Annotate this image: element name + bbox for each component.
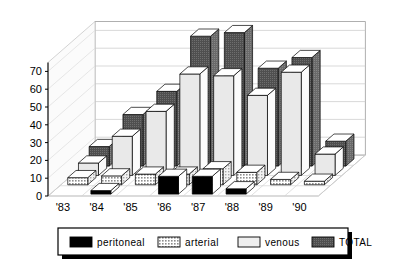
legend-label: peritoneal [97,237,145,248]
venous-swatch [238,237,260,247]
legend-item: peritoneal [70,237,145,248]
legend-item: arterial [158,237,219,248]
y-tick-label: 60 [30,83,42,95]
y-tick-label: 10 [30,172,42,184]
y-tick-label: 0 [36,190,42,202]
chart-3d-bar: 010203040506070 '83'84'85'86'87'88'89'90… [0,0,398,270]
bar [180,67,208,176]
x-tick-label: '86 [157,201,171,213]
bar [214,69,242,176]
bar [146,104,174,175]
x-tick-label: '83 [56,201,70,213]
total-swatch [312,237,334,247]
legend-label: venous [265,237,300,248]
chart-legend: peritonealarterialvenousTOTAL [58,228,372,259]
y-tick-label: 50 [30,101,42,113]
legend-item: venous [238,237,300,248]
x-tick-label: '84 [90,201,104,213]
bar [281,65,309,175]
y-tick-label: 30 [30,137,42,149]
arterial-swatch [158,237,180,247]
y-tick-label: 20 [30,154,42,166]
peritoneal-swatch [70,237,92,247]
x-tick-label: '87 [191,201,205,213]
chart-canvas: 010203040506070 '83'84'85'86'87'88'89'90… [0,0,398,270]
legend-label: arterial [185,237,219,248]
x-tick-label: '85 [123,201,137,213]
x-tick-label: '89 [259,201,273,213]
legend-item: TOTAL [312,237,372,248]
bar [315,147,343,176]
bar [158,169,186,194]
bar [192,169,220,194]
x-tick-label: '88 [225,201,239,213]
legend-label: TOTAL [339,237,372,248]
bar [247,88,275,175]
y-tick-label: 70 [30,65,42,77]
y-tick-label: 40 [30,119,42,131]
x-tick-label: '90 [292,201,306,213]
